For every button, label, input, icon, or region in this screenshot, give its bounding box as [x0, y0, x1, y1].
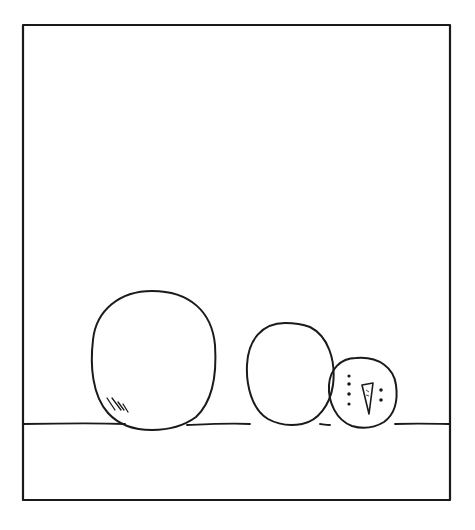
snowman-face	[347, 374, 383, 405]
comic-panel	[0, 0, 475, 530]
small-snowball-head	[329, 358, 397, 428]
medium-snowball	[247, 323, 334, 425]
carrot-lines	[366, 390, 369, 396]
eye-dot	[347, 382, 351, 386]
eye-dot	[347, 392, 351, 396]
eye-dot	[347, 374, 350, 377]
ground-line	[23, 423, 450, 425]
eye-dot	[379, 388, 383, 392]
shading-strokes	[107, 398, 128, 412]
eye-dot	[347, 402, 350, 405]
carrot-nose-icon	[362, 383, 373, 414]
large-snowball	[92, 291, 216, 430]
panel-border	[23, 25, 450, 500]
eye-dot	[379, 398, 383, 402]
